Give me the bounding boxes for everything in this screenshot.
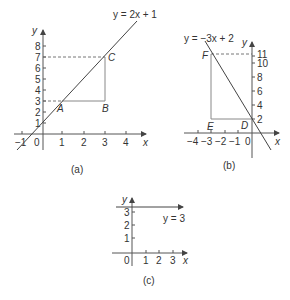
point-c-label: C: [108, 52, 116, 63]
point-b-label: B: [102, 103, 109, 114]
svg-text:−2: −2: [215, 136, 227, 147]
svg-text:6: 6: [257, 86, 263, 97]
svg-text:−1: −1: [229, 136, 241, 147]
svg-text:1: 1: [143, 255, 149, 266]
y-axis-label: y: [121, 194, 128, 205]
x-axis-label: x: [274, 136, 281, 147]
svg-text:4: 4: [257, 100, 263, 111]
equation-label: y = 3: [163, 213, 185, 224]
svg-text:2: 2: [81, 137, 87, 148]
x-axis-label: x: [182, 255, 189, 266]
svg-text:2: 2: [35, 107, 41, 118]
y-ticks: 1 2 3: [124, 207, 135, 244]
svg-text:3: 3: [102, 137, 108, 148]
y-axis-label: y: [31, 25, 38, 36]
svg-text:−3: −3: [201, 136, 213, 147]
y-axis-label: y: [241, 37, 248, 48]
svg-text:3: 3: [35, 96, 41, 107]
svg-text:8: 8: [257, 72, 263, 83]
diagram-canvas: x y −1 0 1 2 3 4 1 2 3: [0, 0, 290, 300]
equation-label: y = 2x + 1: [113, 9, 157, 20]
graph-a: x y −1 0 1 2 3 4 1 2 3: [14, 9, 157, 175]
svg-text:2: 2: [124, 220, 130, 231]
point-f-label: F: [202, 50, 209, 61]
svg-text:3: 3: [124, 207, 130, 218]
svg-text:1: 1: [59, 137, 65, 148]
point-d-label: D: [241, 120, 248, 131]
svg-text:6: 6: [35, 63, 41, 74]
svg-text:4: 4: [35, 85, 41, 96]
y-ticks: 2 4 6 8 10 11: [252, 49, 269, 125]
svg-text:8: 8: [35, 41, 41, 52]
point-a-label: A: [56, 103, 64, 114]
caption-b: (b): [223, 160, 235, 171]
svg-text:3: 3: [170, 255, 176, 266]
svg-text:2: 2: [156, 255, 162, 266]
graph-b: x y −4 −3 −2 −1 0 2 4 6 8 10 11: [184, 33, 281, 171]
svg-text:−4: −4: [187, 136, 199, 147]
svg-text:4: 4: [123, 137, 129, 148]
svg-text:2: 2: [257, 114, 263, 125]
x-axis-label: x: [142, 137, 149, 148]
svg-text:1: 1: [124, 233, 130, 244]
equation-label: y = −3x + 2: [184, 33, 234, 44]
caption-a: (a): [71, 164, 83, 175]
svg-text:0: 0: [124, 255, 130, 266]
svg-text:0: 0: [245, 136, 251, 147]
svg-text:5: 5: [35, 74, 41, 85]
y-ticks: 1 2 3 4 5 6 7 8: [35, 41, 46, 129]
graph-c: x y 0 1 2 3 1 2 3 y = 3 (c): [112, 194, 189, 286]
svg-text:0: 0: [34, 137, 40, 148]
svg-text:11: 11: [257, 49, 268, 60]
point-e-label: E: [207, 121, 214, 132]
svg-text:7: 7: [35, 52, 41, 63]
caption-c: (c): [143, 275, 155, 286]
